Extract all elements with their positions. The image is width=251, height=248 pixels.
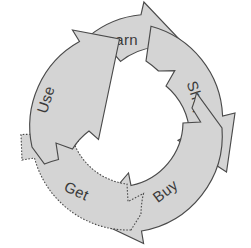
cycle-diagram-canvas: Learn Shop Buy Get Use xyxy=(0,0,251,248)
cycle-diagram: Learn Shop Buy Get Use xyxy=(0,0,251,248)
cycle-segment-use[interactable]: Use xyxy=(30,30,120,164)
